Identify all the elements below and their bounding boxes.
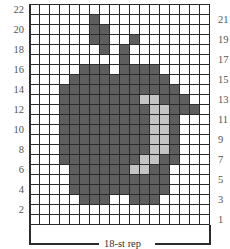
chart-cell (180, 185, 190, 195)
chart-cell (70, 155, 80, 165)
chart-cell (40, 155, 50, 165)
chart-cell (200, 75, 210, 85)
chart-cell (80, 65, 90, 75)
chart-cell (150, 165, 160, 175)
chart-cell (180, 85, 190, 95)
chart-cell (190, 125, 200, 135)
chart-cell (170, 55, 180, 65)
chart-cell (180, 55, 190, 65)
chart-cell (70, 105, 80, 115)
chart-cell (130, 155, 140, 165)
chart-cell (180, 165, 190, 175)
repeat-line-left (29, 243, 99, 245)
chart-cell (80, 115, 90, 125)
chart-cell (100, 35, 110, 45)
chart-cell (120, 185, 130, 195)
chart-cell (50, 125, 60, 135)
chart-cell (160, 15, 170, 25)
chart-cell (40, 215, 50, 225)
chart-cell (130, 185, 140, 195)
chart-cell (190, 75, 200, 85)
chart-cell (130, 25, 140, 35)
chart-cell (120, 125, 130, 135)
chart-cell (40, 25, 50, 35)
chart-cell (130, 215, 140, 225)
chart-cell (200, 25, 210, 35)
chart-cell (40, 5, 50, 15)
chart-cell (100, 25, 110, 35)
chart-cell (190, 175, 200, 185)
chart-cell (70, 95, 80, 105)
chart-cell (120, 5, 130, 15)
repeat-label: 18-st rep (101, 238, 144, 249)
chart-cell (110, 155, 120, 165)
chart-cell (50, 65, 60, 75)
chart-cell (30, 165, 40, 175)
chart-cell (60, 25, 70, 35)
chart-cell (120, 145, 130, 155)
chart-cell (130, 65, 140, 75)
chart-cell (170, 125, 180, 135)
chart-cell (90, 125, 100, 135)
chart-cell (80, 205, 90, 215)
row-label: 1 (218, 215, 223, 225)
chart-cell (170, 195, 180, 205)
chart-cell (170, 115, 180, 125)
chart-cell (130, 15, 140, 25)
chart-cell (140, 175, 150, 185)
chart-cell (180, 95, 190, 105)
chart-cell (30, 195, 40, 205)
chart-cell (190, 145, 200, 155)
chart-cell (50, 25, 60, 35)
row-label: 4 (4, 185, 24, 195)
chart-cell (160, 165, 170, 175)
chart-cell (120, 135, 130, 145)
chart-cell (140, 65, 150, 75)
chart-cell (30, 55, 40, 65)
chart-cell (90, 65, 100, 75)
chart-cell (90, 75, 100, 85)
chart-cell (160, 35, 170, 45)
chart-cell (50, 115, 60, 125)
chart-cell (150, 205, 160, 215)
chart-cell (30, 35, 40, 45)
chart-cell (200, 195, 210, 205)
chart-cell (170, 145, 180, 155)
chart-cell (100, 135, 110, 145)
chart-cell (140, 205, 150, 215)
chart-cell (110, 45, 120, 55)
chart-cell (70, 115, 80, 125)
chart-cell (120, 15, 130, 25)
chart-cell (30, 135, 40, 145)
chart-cell (180, 5, 190, 15)
chart-cell (50, 135, 60, 145)
chart-cell (90, 95, 100, 105)
chart-cell (130, 85, 140, 95)
row-label: 2 (4, 205, 24, 215)
row-label: 12 (4, 105, 24, 115)
chart-cell (120, 95, 130, 105)
chart-cell (160, 195, 170, 205)
chart-cell (100, 125, 110, 135)
chart-cell (90, 105, 100, 115)
chart-cell (60, 215, 70, 225)
chart-cell (80, 95, 90, 105)
chart-cell (200, 65, 210, 75)
chart-cell (30, 205, 40, 215)
chart-cell (50, 35, 60, 45)
row-label: 9 (218, 135, 223, 145)
chart-cell (150, 35, 160, 45)
chart-cell (180, 145, 190, 155)
chart-cell (90, 35, 100, 45)
chart-cell (150, 155, 160, 165)
chart-cell (80, 135, 90, 145)
row-label: 15 (218, 75, 229, 85)
chart-cell (180, 215, 190, 225)
chart-cell (70, 25, 80, 35)
chart-cell (190, 115, 200, 125)
chart-cell (170, 45, 180, 55)
chart-cell (30, 85, 40, 95)
chart-cell (110, 85, 120, 95)
chart-cell (80, 215, 90, 225)
row-label: 20 (4, 25, 24, 35)
